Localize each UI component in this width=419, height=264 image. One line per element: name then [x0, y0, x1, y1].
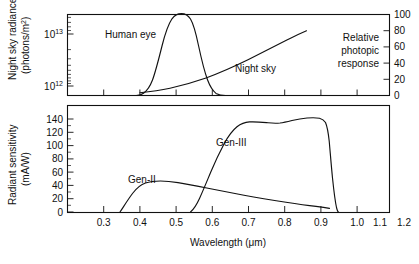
svg-text:(photons/m2): (photons/m2) [20, 17, 31, 74]
bottom-ytick-label-140: 140 [46, 114, 63, 125]
human-eye-label: Human eye [105, 29, 157, 40]
figure-container: Night sky radiance (photons/m2) 1013 101… [0, 0, 419, 264]
gen-3-curve [191, 118, 339, 212]
top-left-axis-ticks [68, 17, 74, 86]
bottom-panel: 140 120 100 80 60 40 20 0 Radiant sensit… [7, 106, 411, 249]
right-ytick-label-60: 60 [394, 41, 406, 52]
bottom-ytick-label-60: 60 [52, 167, 64, 178]
xtick-label-0-3: 0.3 [97, 217, 111, 228]
xtick-label-1-0: 1.0 [350, 217, 364, 228]
right-ytick-label-100: 100 [394, 9, 411, 20]
bottom-ytick-label-0: 0 [57, 207, 63, 218]
right-axis-title-line1: Relative [343, 32, 380, 43]
top-panel: Night sky radiance (photons/m2) 1013 101… [7, 0, 411, 101]
bottom-ylabel-line1: Radiant sensitivity [7, 124, 18, 205]
top-ylabel-line2: (photons/m [20, 24, 31, 74]
right-ytick-label-20: 20 [394, 74, 406, 85]
gen-3-label: Gen-III [216, 137, 247, 148]
right-ytick-label-0: 0 [394, 90, 400, 101]
xtick-label-0-4: 0.4 [133, 217, 147, 228]
bottom-ylabel-line2: (mA/W) [20, 152, 31, 186]
right-axis-title-line2: photopic [341, 45, 379, 56]
x-axis-title: Wavelength (μm) [190, 237, 266, 248]
top-ytick-label-1e12: 1012 [44, 80, 63, 92]
night-sky-curve [140, 31, 307, 93]
chart-svg: Night sky radiance (photons/m2) 1013 101… [0, 0, 419, 264]
xtick-label-0-5: 0.5 [169, 217, 183, 228]
top-right-axis-ticks [384, 15, 390, 96]
xtick-label-0-6: 0.6 [205, 217, 219, 228]
bottom-left-axis-ticks [68, 119, 74, 212]
bottom-ytick-label-80: 80 [52, 153, 64, 164]
bottom-ytick-label-120: 120 [46, 127, 63, 138]
bottom-y-axis-title: Radiant sensitivity (mA/W) [7, 124, 31, 205]
right-ytick-label-80: 80 [394, 25, 406, 36]
top-ytick-label-1e13: 1013 [44, 28, 63, 40]
xtick-label-0-8: 0.8 [278, 217, 292, 228]
right-axis-title-line3: response [338, 58, 380, 69]
right-ytick-label-40: 40 [394, 58, 406, 69]
top-ylabel-line1: Night sky radiance [7, 0, 18, 80]
bottom-ytick-label-40: 40 [52, 180, 64, 191]
top-y-axis-title: Night sky radiance (photons/m2) [7, 0, 31, 80]
xtick-label-0-9: 0.9 [314, 217, 328, 228]
night-sky-label: Night sky [235, 63, 276, 74]
xtick-label-0-7: 0.7 [242, 217, 256, 228]
top-ylabel-end: ) [20, 17, 31, 20]
xtick-label-1-2: 1.2 [397, 217, 411, 228]
human-eye-curve [136, 14, 225, 96]
xtick-label-1-1: 1.1 [373, 217, 387, 228]
gen-2-curve [120, 181, 330, 212]
gen-2-label: Gen-II [128, 174, 156, 185]
bottom-ytick-label-20: 20 [52, 193, 64, 204]
bottom-plot-frame [68, 106, 390, 213]
bottom-ytick-label-100: 100 [46, 140, 63, 151]
